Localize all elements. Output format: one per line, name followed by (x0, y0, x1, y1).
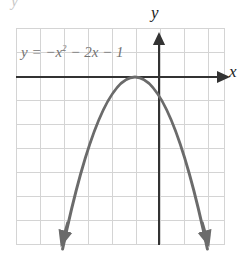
y-axis-label: y (151, 4, 159, 21)
equation-prefix: y = −x (21, 44, 62, 60)
axes (16, 34, 228, 245)
parabola-figure: y (0, 0, 245, 253)
parabola-curve (62, 77, 208, 249)
equation-suffix: − 2x − 1 (67, 44, 124, 60)
grid-lines (16, 28, 225, 245)
coordinate-plane-svg (0, 0, 245, 253)
x-axis-label: x (229, 63, 237, 80)
equation-label: y = −x2 − 2x − 1 (21, 45, 123, 60)
